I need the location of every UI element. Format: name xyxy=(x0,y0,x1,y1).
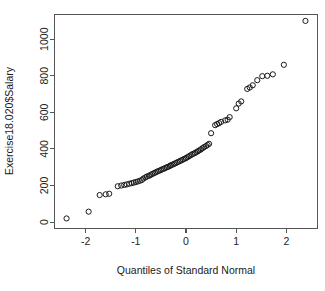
qq-plot-canvas: -2-1012 02004006008001000 Quantiles of S… xyxy=(0,0,325,291)
x-tick-label: -1 xyxy=(131,235,140,247)
y-tick-label: 200 xyxy=(38,177,50,195)
y-tick-label: 400 xyxy=(38,140,50,158)
y-tick-label: 0 xyxy=(38,219,50,225)
x-axis-title: Quantiles of Standard Normal xyxy=(117,264,255,276)
qq-plot-figure: -2-1012 02004006008001000 Quantiles of S… xyxy=(0,0,325,291)
y-tick-label: 600 xyxy=(38,103,50,121)
y-tick-label: 800 xyxy=(38,67,50,85)
y-tick-label: 1000 xyxy=(38,27,50,51)
x-tick-label: 0 xyxy=(183,235,189,247)
x-tick-label: -2 xyxy=(81,235,90,247)
x-tick-label: 2 xyxy=(283,235,289,247)
x-tick-label: 1 xyxy=(233,235,239,247)
y-axis-title: Exercise18.020$Salary xyxy=(3,66,15,175)
